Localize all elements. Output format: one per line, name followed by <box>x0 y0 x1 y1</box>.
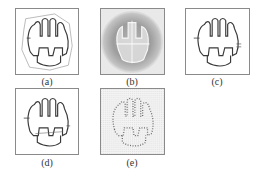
panel-a-image <box>15 8 79 75</box>
caption-a: (a) <box>27 77 67 87</box>
caption-c: (c) <box>197 77 237 87</box>
gradient-field-graphic <box>101 9 164 74</box>
dotted-contour-graphic <box>101 89 164 154</box>
panel-b-image <box>100 8 165 75</box>
panel-d-image <box>15 88 79 155</box>
caption-d: (d) <box>27 158 67 168</box>
extracted-contour-graphic <box>186 9 249 74</box>
extracted-contour-variant-graphic <box>16 89 78 154</box>
caption-e: (e) <box>112 158 152 168</box>
caption-b: (b) <box>112 77 152 87</box>
contour-with-hull-graphic <box>16 9 78 74</box>
panel-e-image <box>100 88 165 155</box>
panel-c-image <box>185 8 250 75</box>
